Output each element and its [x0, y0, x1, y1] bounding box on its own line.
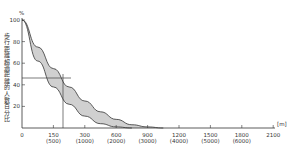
y-tick-label: 100: [10, 17, 21, 23]
x-tick-sublabel: (5000): [201, 138, 219, 144]
x-tick-sublabel: (3000): [138, 138, 156, 144]
band-area: [22, 20, 163, 128]
y-unit-label: %: [19, 10, 24, 16]
x-tick-label: 0: [20, 132, 24, 138]
x-tick-sublabel: (4000): [170, 138, 188, 144]
x-tick-sublabel: (1000): [76, 138, 94, 144]
x-tick-sublabel: (6000): [233, 138, 251, 144]
y-tick-label: 80: [13, 39, 20, 45]
y-tick-label: 40: [13, 82, 20, 88]
y-tick-label: 20: [13, 103, 20, 109]
y-axis-ticks: 10080604020: [10, 17, 26, 109]
x-tick-sublabel: (500): [46, 138, 61, 144]
y-axis-title-char: 比: [4, 115, 10, 123]
y-axis-title: 歩行距離超過距離的人數百分比: [4, 32, 10, 123]
x-unit-label: [m]: [277, 121, 287, 127]
x-tick-label: 2100: [266, 132, 280, 138]
y-tick-label: 60: [13, 60, 20, 66]
walking-distance-chart: 10080604020 0150(500)300(1000)600(2000)9…: [0, 0, 295, 161]
lower-curve: [22, 20, 132, 128]
x-tick-sublabel: (2000): [107, 138, 125, 144]
